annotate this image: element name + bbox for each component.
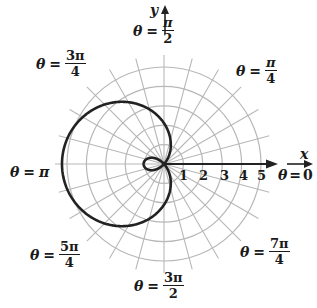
radial-tick-2: 2: [199, 168, 208, 183]
angle-label-pi-over-2: θ = π2: [133, 16, 174, 45]
x-axis-label: x: [300, 146, 308, 162]
angle-label-pi: θ = π: [10, 165, 49, 179]
polar-graph-figure: y x 1 2 3 4 5 θ = π2 θ = 3π4 θ = π4 θ = …: [0, 0, 317, 308]
angle-label-0: θ = 0: [278, 168, 313, 182]
radial-tick-1: 1: [179, 168, 188, 183]
angle-label-3pi-over-4: θ = 3π4: [36, 49, 86, 78]
angle-label-3pi-over-2: θ = 3π2: [134, 271, 184, 300]
angle-label-5pi-over-4: θ = 5π4: [30, 240, 80, 269]
radial-tick-4: 4: [239, 168, 248, 183]
angle-label-7pi-over-4: θ = 7π4: [240, 237, 290, 266]
radial-tick-5: 5: [257, 168, 266, 183]
angle-label-pi-over-4: θ = π4: [236, 56, 277, 85]
radial-tick-3: 3: [220, 168, 229, 183]
